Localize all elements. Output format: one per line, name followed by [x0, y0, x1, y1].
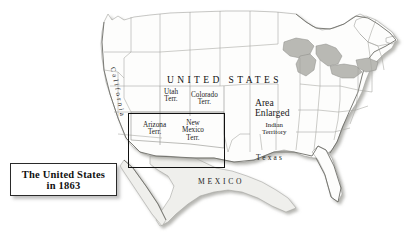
label-texas: Texas — [256, 154, 284, 162]
label-utah-territory: Utah Terr. — [164, 89, 178, 104]
label-colorado-territory: Colorado Terr. — [191, 92, 218, 107]
legend-line1: The United States — [22, 169, 105, 180]
united-states-landmass — [101, 11, 398, 202]
label-utah-line2: Terr. — [164, 96, 178, 103]
label-arizona-line2: Terr. — [143, 129, 166, 136]
label-indian-territory: Indian Territory — [262, 121, 286, 135]
label-indian-line1: Indian — [265, 121, 283, 128]
label-area-line2: Enlarged — [255, 108, 289, 118]
label-mexico: MEXICO — [198, 178, 244, 186]
label-california-text: California — [109, 66, 127, 118]
label-colorado-line2: Terr. — [191, 99, 218, 106]
label-united-states: UNITED STATES — [167, 76, 282, 86]
label-area-line1: Area — [255, 97, 274, 108]
label-california: California — [96, 62, 136, 152]
label-new-mexico-territory: New Mexico Terr. — [182, 120, 204, 142]
map-screenshot: UNITED STATES MEXICO Texas Utah Terr. Co… — [0, 0, 414, 234]
map-legend-box: The United States in 1863 — [10, 163, 117, 196]
label-area-enlarged: Area Enlarged — [255, 98, 289, 119]
legend-line2: in 1863 — [47, 180, 81, 191]
label-new-mexico-line3: Terr. — [182, 135, 204, 142]
label-arizona-territory: Arizona Terr. — [143, 122, 166, 137]
label-indian-line2: Territory — [262, 128, 286, 135]
